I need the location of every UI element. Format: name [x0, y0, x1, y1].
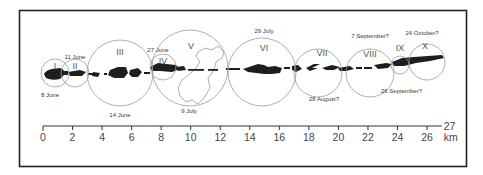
circle-numeral: VIII — [363, 49, 377, 59]
scale-tick-label: 16 — [273, 131, 285, 143]
circle-date-label: 27 June — [147, 47, 169, 53]
circle-numeral: X — [422, 41, 428, 51]
circle-numeral: IX — [396, 43, 405, 53]
scale-tick-label: 18 — [303, 131, 315, 143]
scale-tick-label: 0 — [40, 131, 46, 143]
circle-date-label: 7 September? — [351, 33, 389, 39]
scale-tick-label: 26 — [421, 131, 433, 143]
scale-tick-label: 20 — [333, 131, 345, 143]
trace-blobs — [44, 55, 444, 80]
circle-numeral: VII — [316, 48, 327, 58]
circle-date-label: 9 July — [181, 108, 197, 114]
scale-tick-label: 2 — [70, 131, 76, 143]
scale-unit-label: km — [444, 131, 458, 143]
circle-date-label: 8 June — [41, 92, 60, 98]
circle-numeral: V — [188, 41, 194, 51]
circle-date-label: 26 September? — [381, 88, 423, 94]
coastline-outline — [178, 46, 224, 104]
diagram: I8 JuneII11 JuneIII14 JuneIV27 JuneV9 Ju… — [0, 0, 483, 175]
circle-date-label: 24 October? — [405, 30, 439, 36]
circle-numeral: I — [54, 61, 57, 71]
event-circles: I8 JuneII11 JuneIII14 JuneIV27 JuneV9 Ju… — [41, 28, 445, 118]
circle-date-label: 28 August? — [309, 96, 340, 102]
circle-date-label: 14 June — [109, 112, 131, 118]
circle-numeral: VI — [260, 43, 269, 53]
scale-tick-label: 14 — [244, 131, 256, 143]
scale-tick-label: 24 — [392, 131, 404, 143]
circle-numeral: II — [72, 61, 77, 71]
scale-tick-label: 22 — [362, 131, 374, 143]
circle-date-label: 29 July — [254, 28, 273, 34]
scale-tick-label: 10 — [185, 131, 197, 143]
scale-tick-label: 12 — [214, 131, 226, 143]
circle-date-label: 11 June — [65, 54, 87, 60]
scale-tick-label: 8 — [158, 131, 164, 143]
scale-tick-label: 6 — [129, 131, 135, 143]
circle-numeral: IV — [159, 56, 168, 66]
scale-bar: 0246810121416182022242627km — [40, 120, 458, 143]
scale-tick-label: 4 — [99, 131, 105, 143]
circle-numeral: III — [116, 47, 124, 57]
